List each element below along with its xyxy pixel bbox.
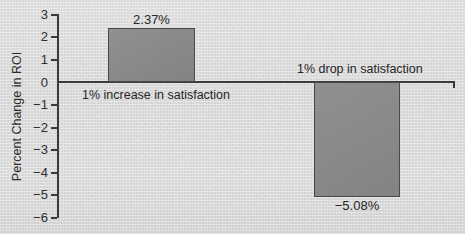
y-tick-label-neg4: −4 <box>20 166 48 179</box>
y-tick-neg1: −1 <box>20 98 48 111</box>
y-tick-0: 0 <box>20 76 48 89</box>
y-tick-neg3: −3 <box>20 143 48 156</box>
bar-category-label-drop: 1% drop in satisfaction <box>297 62 419 76</box>
y-tick-label-neg5: −5 <box>20 188 48 201</box>
y-tick-3: 3 <box>20 8 48 21</box>
y-tick-label-2: 2 <box>20 30 48 43</box>
y-tick-neg6: −6 <box>20 211 48 224</box>
y-tick-neg5: −5 <box>20 188 48 201</box>
y-tick-neg2: −2 <box>20 121 48 134</box>
bar-chart-figure: Percent Change in ROI 3 2 1 0 −1 −2 −3 −… <box>0 0 465 234</box>
y-tick-label-neg3: −3 <box>20 143 48 156</box>
bar-drop-in-satisfaction <box>314 82 400 197</box>
y-tick-label-3: 3 <box>20 8 48 21</box>
bar-value-label-increase: 2.37% <box>108 13 195 27</box>
y-tick-label-1: 1 <box>20 53 48 66</box>
y-tick-neg4: −4 <box>20 166 48 179</box>
y-tick-2: 2 <box>20 30 48 43</box>
y-tick-label-0: 0 <box>20 76 48 89</box>
x-axis-end-tick <box>453 81 455 88</box>
bar-increase-in-satisfaction <box>108 28 195 82</box>
y-tick-label-neg2: −2 <box>20 121 48 134</box>
y-tick-label-neg6: −6 <box>20 211 48 224</box>
bar-value-label-drop: −5.08% <box>314 199 400 213</box>
bar-category-label-increase: 1% increase in satisfaction <box>82 88 222 102</box>
y-tick-1: 1 <box>20 53 48 66</box>
y-axis-line <box>57 14 59 218</box>
y-tick-label-neg1: −1 <box>20 98 48 111</box>
